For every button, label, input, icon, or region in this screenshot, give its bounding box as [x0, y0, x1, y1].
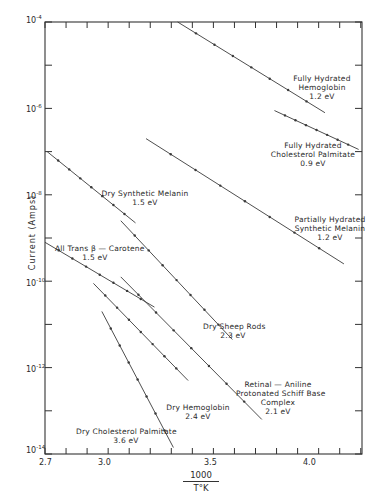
- data-point-marker: [126, 290, 128, 292]
- data-point-marker: [213, 43, 215, 45]
- data-point-marker: [147, 249, 149, 251]
- label-line: Partially Hydrated: [290, 215, 370, 224]
- label-line: 0.9 eV: [268, 159, 358, 168]
- label-line: All Trans β — Carotene: [55, 244, 135, 253]
- label-dry-cholesterol-palmitate: Dry Cholesterol Palmitate 3.6 eV: [76, 427, 176, 445]
- label-line: 1.5 eV: [55, 253, 135, 262]
- data-point-marker: [57, 159, 59, 161]
- label-line: 2.3 eV: [203, 331, 263, 340]
- data-point-marker: [232, 55, 234, 57]
- data-point-marker: [305, 124, 307, 126]
- data-point-marker: [99, 274, 101, 276]
- label-line: 3.6 eV: [76, 436, 176, 445]
- data-point-marker: [194, 169, 196, 171]
- data-point-marker: [90, 186, 92, 188]
- label-line: Protonated Schiff Base: [236, 389, 320, 398]
- x-tick-label-2-7: 2.7: [39, 458, 52, 467]
- label-line: Dry Sheep Rods: [203, 322, 263, 331]
- data-point-marker: [326, 134, 328, 136]
- y-tick-label-1e-12: 10-12: [26, 363, 45, 374]
- label-dry-synthetic-melanin: Dry Synthetic Melanin 1.5 eV: [100, 189, 190, 207]
- label-dry-sheep-rods: Dry Sheep Rods 2.3 eV: [203, 322, 263, 340]
- data-point-marker: [244, 200, 246, 202]
- data-point-marker: [250, 66, 252, 68]
- data-point-marker: [79, 177, 81, 179]
- data-point-marker: [154, 412, 156, 414]
- label-dry-hemoglobin: Dry Hemoglobin 2.4 eV: [165, 403, 231, 421]
- label-line: Fully Hydrated: [268, 141, 358, 150]
- label-line: 1.5 eV: [100, 198, 190, 207]
- data-point-marker: [151, 343, 153, 345]
- y-axis-title: Current (Amps): [28, 193, 37, 273]
- x-tick-label-3-5: 3.5: [204, 458, 217, 467]
- data-point-marker: [145, 395, 147, 397]
- data-point-marker: [175, 367, 177, 369]
- x-tick-label-3-0: 3.0: [98, 458, 111, 467]
- data-point-marker: [128, 319, 130, 321]
- label-fully-hydrated-hemoglobin: Fully Hydrated Hemoglobin 1.2 eV: [282, 74, 362, 101]
- data-point-marker: [119, 344, 121, 346]
- data-point-marker: [137, 294, 139, 296]
- label-line: Dry Cholesterol Palmitate: [76, 427, 176, 436]
- series-line: [47, 152, 135, 223]
- label-line: 2.1 eV: [236, 407, 320, 416]
- label-retinal-aniline-schiff-base-complex: Retinal — Aniline Protonated Schiff Base…: [236, 380, 320, 416]
- x-axis-title-numerator: 1000: [183, 470, 219, 482]
- x-tick-label-4-0: 4.0: [303, 458, 316, 467]
- label-line: Dry Synthetic Melanin: [100, 189, 190, 198]
- data-point-marker: [116, 306, 118, 308]
- data-point-marker: [225, 383, 227, 385]
- x-axis-title: 1000 T°K: [183, 470, 219, 493]
- data-point-marker: [170, 153, 172, 155]
- data-point-marker: [315, 129, 317, 131]
- data-point-marker: [85, 265, 87, 267]
- data-point-marker: [104, 294, 106, 296]
- data-point-marker: [284, 114, 286, 116]
- label-line: Hemoglobin: [282, 83, 362, 92]
- data-point-marker: [136, 378, 138, 380]
- label-line: Dry Hemoglobin: [165, 403, 231, 412]
- data-point-marker: [127, 361, 129, 363]
- data-point-marker: [110, 327, 112, 329]
- y-tick-label-1e-6: 10-6: [26, 103, 42, 114]
- data-point-marker: [163, 355, 165, 357]
- label-fully-hydrated-cholesterol-palmitate: Fully Hydrated Cholesterol Palmitate 0.9…: [268, 141, 358, 168]
- data-point-marker: [294, 119, 296, 121]
- data-point-marker: [203, 309, 205, 311]
- data-point-marker: [195, 32, 197, 34]
- data-point-marker: [175, 279, 177, 281]
- data-point-marker: [219, 184, 221, 186]
- label-all-trans-beta-carotene: All Trans β — Carotene 1.5 eV: [55, 244, 135, 262]
- y-tick-label-1e-4: 10-4: [26, 14, 42, 25]
- data-point-marker: [172, 329, 174, 331]
- data-point-marker: [112, 282, 114, 284]
- label-partially-hydrated-synthetic-melanin: Partially Hydrated Synthetic Melanin 1.2…: [290, 215, 370, 242]
- label-line: Synthetic Melanin: [290, 224, 370, 233]
- data-point-marker: [190, 347, 192, 349]
- data-point-marker: [208, 365, 210, 367]
- y-tick-label-1e-10: 10-10: [26, 277, 45, 288]
- data-point-marker: [134, 234, 136, 236]
- data-point-marker: [318, 247, 320, 249]
- data-point-marker: [155, 311, 157, 313]
- data-point-marker: [269, 78, 271, 80]
- data-point-marker: [123, 213, 125, 215]
- y-tick-label-1e-14: 10-14: [26, 444, 45, 455]
- data-point-marker: [161, 264, 163, 266]
- label-line: 2.4 eV: [165, 412, 231, 421]
- data-point-marker: [68, 168, 70, 170]
- label-line: Cholesterol Palmitate: [268, 150, 358, 159]
- x-axis-title-denominator: T°K: [183, 482, 219, 493]
- data-point-marker: [269, 216, 271, 218]
- label-line: Retinal — Aniline: [236, 380, 320, 389]
- label-line: Complex: [236, 398, 320, 407]
- label-line: 1.2 eV: [290, 233, 370, 242]
- data-point-marker: [140, 331, 142, 333]
- data-point-marker: [189, 294, 191, 296]
- label-line: Fully Hydrated: [282, 74, 362, 83]
- label-line: 1.2 eV: [282, 92, 362, 101]
